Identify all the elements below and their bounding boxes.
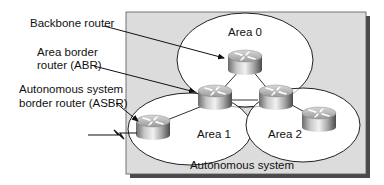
asbr-callout-line1: Autonomous system — [19, 83, 123, 95]
area2-router-icon — [302, 107, 336, 132]
abr-callout-line1: Area border — [37, 46, 98, 58]
abr-router-icon — [198, 85, 232, 110]
asbr-router-icon — [136, 115, 170, 140]
backbone-router-icon — [228, 50, 262, 75]
ospf-diagram: Area 0 Area 1 Area 2 Autonomous system B… — [0, 0, 384, 185]
area-2-label: Area 2 — [268, 128, 302, 140]
abr2-router-icon — [259, 85, 293, 110]
abr-callout-line2: router (ABR) — [37, 59, 102, 71]
backbone-router-callout: Backbone router — [30, 17, 115, 29]
asbr-callout-line2: border router (ASBR) — [19, 97, 128, 109]
area-0-label: Area 0 — [228, 26, 262, 38]
autonomous-system-label: Autonomous system — [190, 159, 294, 171]
area-1-label: Area 1 — [197, 128, 231, 140]
